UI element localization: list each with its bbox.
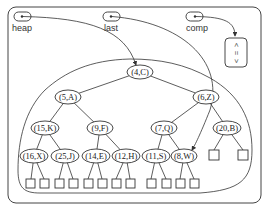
svg-text:(9,F): (9,F) [92, 123, 109, 133]
svg-text:(12,H): (12,H) [115, 151, 138, 161]
node-15-K: (15,K) [31, 121, 59, 135]
node-4-C: (4,C) [127, 65, 153, 79]
node-8-W: (8,W) [171, 149, 197, 163]
heap-diagram: heap last comp < = > [0, 0, 270, 213]
node-9-F: (9,F) [87, 121, 113, 135]
comparator-gt: > [233, 59, 240, 63]
node-12-H: (12,H) [112, 149, 140, 163]
pointer-label-heap: heap [12, 23, 32, 33]
node-16-X: (16,X) [20, 149, 48, 163]
svg-text:(5,A): (5,A) [59, 92, 77, 102]
node-5-A: (5,A) [55, 90, 81, 104]
node-25-J: (25,J) [51, 149, 79, 163]
svg-text:(6,Z): (6,Z) [197, 92, 214, 102]
comparator-lt: < [233, 43, 240, 47]
svg-text:(15,K): (15,K) [34, 123, 57, 133]
node-7-Q: (7,Q) [151, 121, 177, 135]
svg-text:(8,W): (8,W) [174, 151, 194, 161]
node-11-S: (11,S) [142, 149, 170, 163]
node-6-Z: (6,Z) [193, 90, 219, 104]
comparator-eq: = [233, 51, 240, 55]
outer-frame [8, 7, 261, 203]
svg-text:(4,C): (4,C) [131, 67, 149, 77]
svg-text:(16,X): (16,X) [23, 151, 46, 161]
svg-text:(7,Q): (7,Q) [155, 123, 173, 133]
comparator-box: < = > [225, 38, 247, 67]
svg-text:(14,E): (14,E) [85, 151, 107, 161]
svg-text:(25,J): (25,J) [55, 151, 75, 161]
pointer-comp: comp [186, 12, 235, 36]
node-14-E: (14,E) [82, 149, 110, 163]
node-20-B: (20,B) [213, 121, 241, 135]
pointer-label-comp: comp [186, 23, 208, 33]
svg-text:(20,B): (20,B) [216, 123, 238, 133]
pointer-label-last: last [104, 23, 119, 33]
svg-text:(11,S): (11,S) [146, 151, 167, 161]
